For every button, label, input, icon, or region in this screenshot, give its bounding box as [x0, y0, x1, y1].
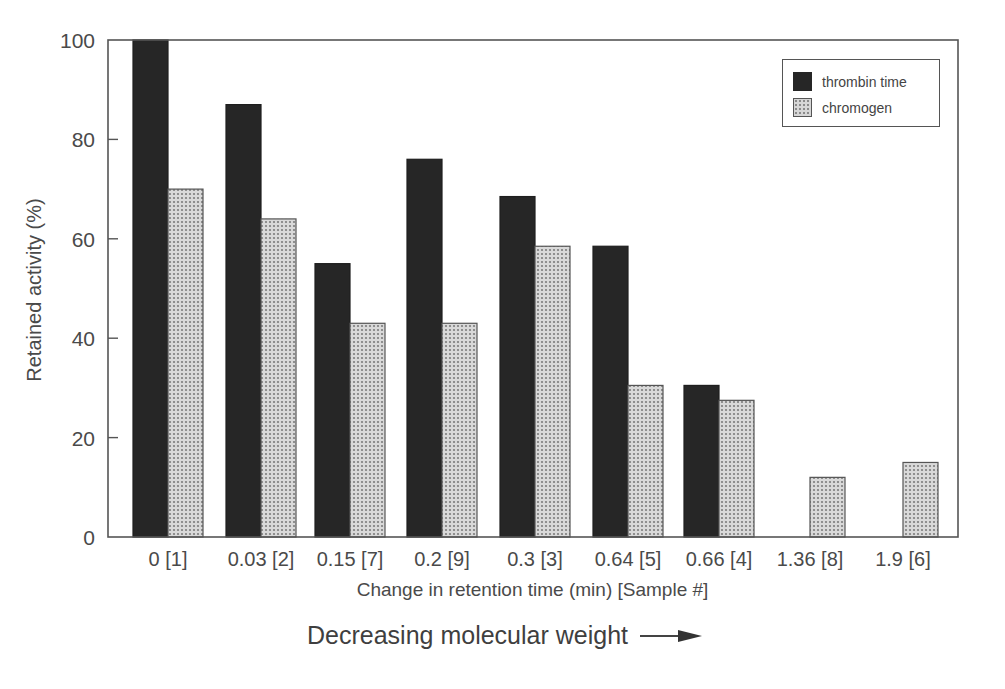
bar-chromogen	[261, 219, 296, 537]
bar-thrombin-time	[593, 246, 628, 537]
y-tick-label: 20	[72, 427, 95, 450]
legend: thrombin time chromogen	[782, 59, 940, 127]
x-tick-label: 1.36 [8]	[777, 548, 844, 570]
bar-chromogen	[168, 189, 203, 537]
bar-thrombin-time	[315, 264, 350, 537]
legend-item-chromogen: chromogen	[793, 98, 892, 117]
bar-chromogen	[442, 323, 477, 537]
hatched-swatch-icon	[793, 98, 812, 117]
bar-chromogen	[628, 385, 663, 537]
x-tick-label: 1.9 [6]	[875, 548, 931, 570]
bar-thrombin-time	[133, 40, 168, 537]
arrow-right-icon	[640, 630, 704, 642]
bar-chromogen	[350, 323, 385, 537]
x-tick-label: 0.03 [2]	[228, 548, 295, 570]
annotation: Decreasing molecular weight	[307, 621, 704, 650]
bar-chromogen	[903, 462, 938, 537]
bar-thrombin-time	[226, 105, 261, 537]
x-tick-label: 0.66 [4]	[686, 548, 753, 570]
x-axis-label: Change in retention time (min) [Sample #…	[0, 579, 1005, 601]
annotation-text: Decreasing molecular weight	[307, 621, 628, 650]
bar-thrombin-time	[684, 385, 719, 537]
bar-thrombin-time	[500, 197, 535, 537]
x-tick-label: 0.64 [5]	[595, 548, 662, 570]
y-tick-label: 40	[72, 327, 95, 350]
y-tick-label: 80	[72, 128, 95, 151]
x-tick-label: 0.3 [3]	[507, 548, 563, 570]
x-tick-label: 0.2 [9]	[414, 548, 470, 570]
y-axis: 020406080100	[60, 29, 95, 549]
y-tick-label: 0	[83, 526, 95, 549]
x-tick-label: 0.15 [7]	[317, 548, 384, 570]
x-tick-label: 0 [1]	[149, 548, 188, 570]
legend-label: chromogen	[822, 100, 892, 116]
bar-chromogen	[810, 477, 845, 537]
solid-swatch-icon	[793, 72, 812, 91]
y-tick-label: 100	[60, 29, 95, 52]
bar-chromogen	[719, 400, 754, 537]
legend-label: thrombin time	[822, 74, 907, 90]
y-tick-label: 60	[72, 228, 95, 251]
y-axis-label: Retained activity (%)	[23, 198, 46, 381]
bar-chromogen	[535, 246, 570, 537]
bar-thrombin-time	[407, 159, 442, 537]
legend-item-thrombin: thrombin time	[793, 72, 907, 91]
